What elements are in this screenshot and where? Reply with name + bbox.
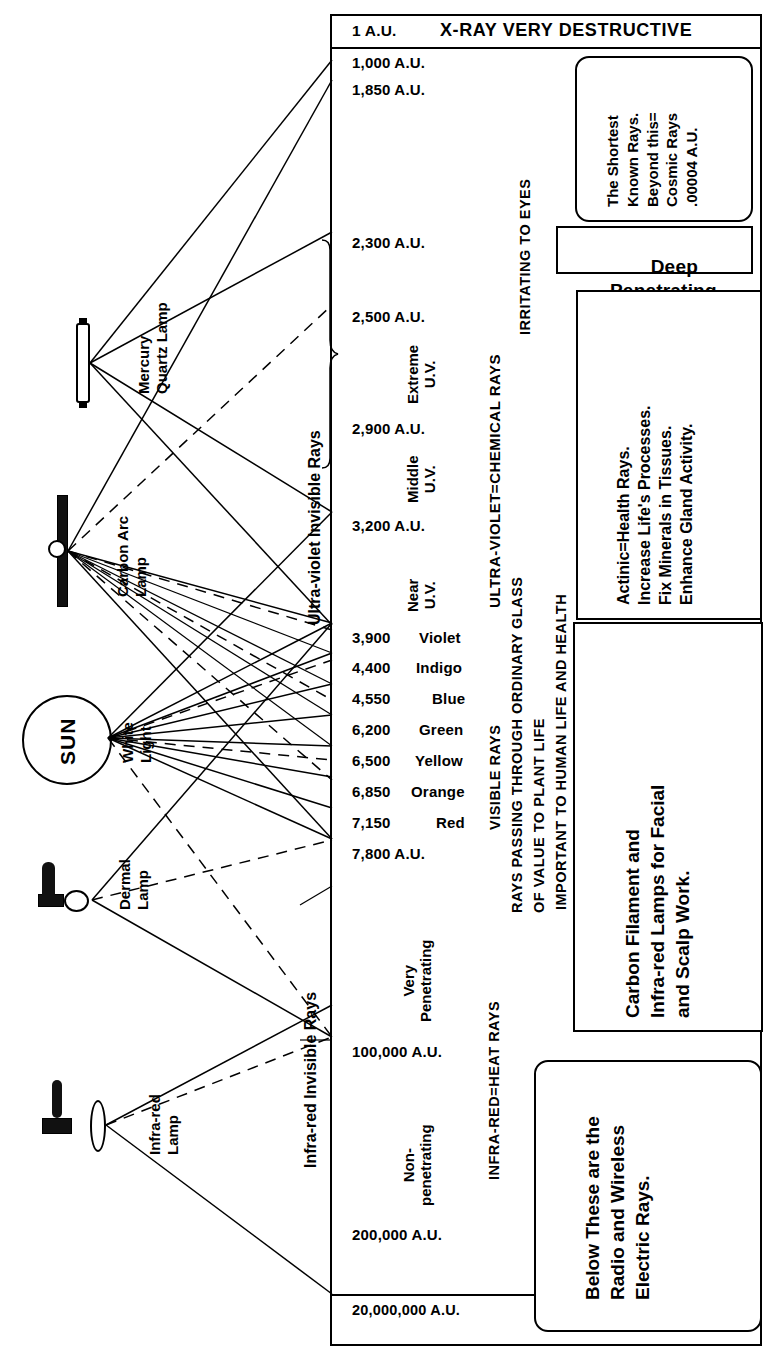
infrared-lamp-label: Infra-red Lamp xyxy=(146,1094,182,1155)
mercury-lamp-cap-top xyxy=(79,318,87,324)
row-au-1000: 1,000 A.U. xyxy=(352,54,425,72)
panel-radio-wireless-text: Below These are the Radio and Wireless E… xyxy=(580,1116,655,1300)
row-au-20000000: 20,000,000 A.U. xyxy=(352,1302,460,1319)
row-band-near-uv: Near U.V. xyxy=(404,579,439,612)
strip-label-ordinary-glass: RAYS PASSING THROUGH ORDINARY GLASS xyxy=(509,576,525,913)
mercury-lamp-cap-bottom xyxy=(79,402,87,408)
row-au-100000: 100,000 A.U. xyxy=(352,1043,442,1061)
visible-au-orange: 6,850 xyxy=(352,783,391,801)
infrared-lamp-rays xyxy=(106,1005,332,1294)
ir-invisible-rays-label: Infra-red Invisible Rays xyxy=(301,992,320,1168)
infrared-lamp-reflector-icon xyxy=(90,1100,106,1152)
strip-label-visible: VISIBLE RAYS xyxy=(487,725,503,830)
sun-label: SUN xyxy=(56,718,80,765)
dermal-lamp-rays xyxy=(92,623,332,1037)
row-band-non-penetrating: Non- penetrating xyxy=(400,1124,435,1206)
strip-label-infrared: INFRA-RED=HEAT RAYS xyxy=(486,1001,502,1180)
xray-banner-title: X-RAY VERY DESTRUCTIVE xyxy=(440,20,692,41)
strip-label-human-life: IMPORTANT TO HUMAN LIFE AND HEALTH xyxy=(553,594,569,910)
visible-color-orange: Orange xyxy=(411,783,465,801)
white-light-label: White Light xyxy=(119,722,155,763)
uv-invisible-rays-label: Ultra-violet Invisible Rays xyxy=(305,430,324,625)
visible-color-violet: Violet xyxy=(419,629,461,647)
strip-label-ultraviolet: ULTRA-VIOLET=CHEMICAL RAYS xyxy=(486,354,503,608)
xray-wavelength-value: 1 A.U. xyxy=(352,22,397,40)
dermal-lamp-bulb-icon xyxy=(64,890,89,912)
visible-color-red: Red xyxy=(436,814,465,832)
infrared-lamp-handle-icon xyxy=(52,1080,62,1118)
panel-cosmic-rays-text: The Shortest Known Rays. Beyond this= Co… xyxy=(603,112,702,207)
visible-color-indigo: Indigo xyxy=(416,659,462,677)
row-au-2900: 2,900 A.U. xyxy=(352,420,425,438)
visible-au-green: 6,200 xyxy=(352,721,391,739)
visible-au-red: 7,150 xyxy=(352,814,391,832)
row-au-1850: 1,850 A.U. xyxy=(352,81,425,99)
dermal-lamp-neck-icon xyxy=(42,862,55,896)
row-au-7800: 7,800 A.U. xyxy=(352,845,425,863)
row-au-3200: 3,200 A.U. xyxy=(352,517,425,535)
visible-color-blue: Blue xyxy=(432,690,465,708)
visible-au-indigo: 4,400 xyxy=(352,659,391,677)
dermal-lamp-label: Dermal Lamp xyxy=(116,859,152,910)
row-au-2500: 2,500 A.U. xyxy=(352,308,425,326)
strip-label-plant-life: OF VALUE TO PLANT LIFE xyxy=(531,718,547,913)
visible-au-blue: 4,550 xyxy=(352,690,391,708)
strip-label-irritating: IRRITATING TO EYES xyxy=(517,179,533,335)
panel-actinic-text: Actinic=Health Rays. Increase Life's Pro… xyxy=(613,406,697,605)
visible-au-yellow: 6,500 xyxy=(352,752,391,770)
infrared-lamp-body-icon xyxy=(42,1118,72,1134)
row-au-200000: 200,000 A.U. xyxy=(352,1226,442,1244)
carbon-arc-spark-icon xyxy=(48,540,66,558)
visible-color-green: Green xyxy=(419,721,463,739)
panel-carbon-filament-text: Carbon Filament and Infra-red Lamps for … xyxy=(620,785,695,1018)
row-band-very-penetrating: Very Penetrating xyxy=(400,939,435,1022)
carbon-arc-lamp-label: Carbon Arc Lamp xyxy=(114,516,150,597)
row-cell-1850 xyxy=(332,76,482,229)
mercury-quartz-lamp-icon xyxy=(76,323,90,403)
row-au-2300: 2,300 A.U. xyxy=(352,234,425,252)
row-band-middle-uv: Middle U.V. xyxy=(404,456,439,504)
mercury-quartz-lamp-label: Mercury Quartz Lamp xyxy=(135,302,171,394)
visible-au-violet: 3,900 xyxy=(352,629,391,647)
spectrum-chart-page: 1 A.U. X-RAY VERY DESTRUCTIVE 1,000 A.U.… xyxy=(0,0,766,1360)
visible-color-yellow: Yellow xyxy=(415,752,463,770)
row-band-extreme-uv: Extreme U.V. xyxy=(404,345,439,404)
